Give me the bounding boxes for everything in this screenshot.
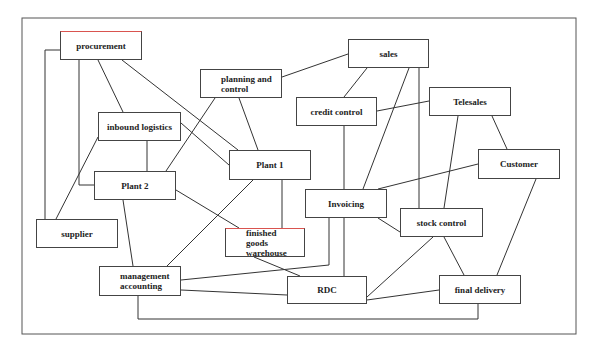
node-plant1[interactable]: Plant 1 [229, 150, 311, 180]
connector-mgmt-rdc [181, 290, 287, 295]
connector-inbound-plant1 [181, 123, 229, 165]
node-fgw[interactable]: finished goods warehouse [225, 228, 305, 257]
node-inbound[interactable]: inbound logistics [98, 112, 181, 141]
node-procurement[interactable]: procurement [60, 31, 142, 60]
node-telesales[interactable]: Telesales [429, 87, 511, 116]
connector-telesales-customer [492, 116, 507, 149]
node-label: Customer [500, 159, 538, 169]
node-supplier[interactable]: supplier [36, 219, 118, 248]
node-label: credit control [311, 107, 363, 117]
connector-procurement-supplier [45, 50, 60, 219]
connector-inbound-supplier [56, 137, 98, 219]
node-stock[interactable]: stock control [400, 208, 483, 237]
node-label: RDC [317, 285, 337, 295]
node-sales[interactable]: sales [348, 39, 429, 68]
diagram-canvas: procurementplanning and controlinbound l… [0, 0, 598, 352]
connector-sales-credit [344, 68, 367, 97]
node-final[interactable]: final delivery [439, 275, 521, 304]
connector-invoicing-stock [378, 218, 400, 232]
connector-planning-sales [282, 54, 348, 77]
node-credit[interactable]: credit control [296, 97, 377, 126]
node-label: planning and control [221, 74, 272, 94]
node-label: final delivery [455, 285, 506, 295]
node-invoicing[interactable]: Invoicing [305, 189, 387, 218]
connector-procurement-inbound [98, 60, 123, 112]
node-label: supplier [61, 229, 93, 239]
connector-sales-invoicing [363, 68, 409, 189]
node-label: finished goods warehouse [246, 228, 300, 258]
connector-stock-rdc [367, 237, 433, 297]
connector-fgw-rdc [254, 257, 300, 276]
connector-plant2-mgmt [123, 200, 133, 266]
node-customer[interactable]: Customer [478, 149, 560, 179]
node-label: Plant 1 [256, 160, 283, 170]
connector-stock-final [444, 237, 464, 275]
node-label: sales [380, 49, 398, 59]
node-label: management accounting [120, 271, 170, 291]
node-label: inbound logistics [107, 122, 172, 132]
connector-customer-final [497, 179, 536, 275]
node-label: Telesales [453, 97, 487, 107]
node-planning[interactable]: planning and control [200, 69, 282, 98]
connector-credit-telesales [377, 101, 429, 111]
connector-plant2-fgw [176, 190, 239, 228]
node-mgmt[interactable]: management accounting [99, 266, 181, 296]
node-label: stock control [417, 218, 467, 228]
connector-planning-plant1 [239, 98, 258, 150]
node-rdc[interactable]: RDC [287, 276, 367, 304]
node-plant2[interactable]: Plant 2 [94, 171, 176, 200]
connector-customer-invoicing [378, 164, 478, 189]
node-label: procurement [76, 41, 126, 51]
connector-procurement-plant2 [79, 60, 94, 185]
node-label: Invoicing [328, 199, 364, 209]
connector-rdc-final [367, 290, 439, 300]
node-label: Plant 2 [121, 181, 148, 191]
connector-telesales-stock [444, 116, 458, 208]
